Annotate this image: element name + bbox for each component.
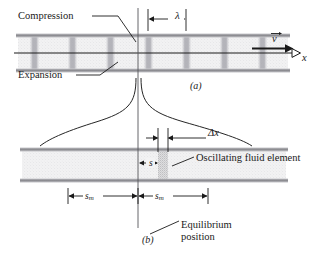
figure-vector-layer [0, 0, 312, 260]
panel-a-tube [14, 32, 301, 73]
equilibrium-line-1: Equilibrium [181, 219, 232, 231]
delta-x-label: Δx [208, 127, 219, 139]
wavelength-label: λ [175, 9, 180, 21]
expansion-label: Expansion [18, 69, 62, 81]
panel-b-wall-top [20, 148, 288, 152]
oscillating-fluid-element-label: Oscillating fluid element [196, 152, 300, 164]
tube-wall-top [16, 34, 290, 38]
displacement-s-label: s [149, 158, 153, 169]
amplitude-right-label: sm [155, 191, 164, 203]
equilibrium-position-label: Equilibrium position [181, 219, 232, 243]
equilibrium-line-2: position [181, 231, 232, 243]
amplitude-right-subscript: m [159, 194, 164, 202]
compression-label: Compression [18, 10, 73, 22]
x-axis-label: x [302, 52, 307, 64]
panel-b-label: (b) [142, 234, 154, 245]
equilibrium-leader-line [150, 221, 179, 234]
wavelength-dimension [148, 9, 186, 31]
amplitude-left-subscript: m [89, 194, 94, 202]
velocity-vector-label: v [272, 33, 277, 45]
sound-wave-figure: Compression Expansion λ v x (a) Δx s Osc… [0, 0, 312, 260]
panel-b-wall-bottom [20, 179, 288, 183]
magnification-funnel [40, 78, 252, 146]
panel-a-label: (a) [190, 80, 202, 91]
amplitude-left-label: sm [85, 191, 94, 203]
oscillating-fluid-element [158, 151, 168, 179]
x-axis-arrowhead [292, 49, 301, 58]
